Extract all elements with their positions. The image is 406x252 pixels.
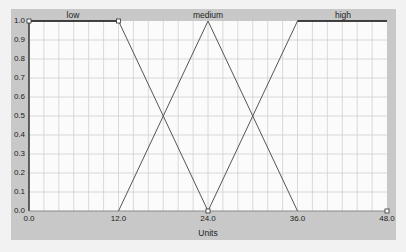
y-tick-label: 0.4: [14, 130, 25, 139]
y-tick-label: 0.6: [14, 92, 25, 101]
x-axis-title: Units: [198, 228, 217, 238]
point-handle[interactable]: [27, 19, 31, 23]
x-tick-label: 48.0: [379, 214, 395, 223]
y-tick-label: 0.5: [14, 111, 25, 120]
point-handle[interactable]: [206, 209, 210, 213]
x-tick-label: 0.0: [23, 214, 34, 223]
point-handle[interactable]: [117, 19, 121, 23]
x-tick-label: 36.0: [290, 214, 306, 223]
x-tick-label: 24.0: [200, 214, 216, 223]
y-tick-label: 0.7: [14, 73, 25, 82]
point-handle[interactable]: [385, 209, 389, 213]
y-tick-label: 0.9: [14, 35, 25, 44]
y-tick-label: 1.0: [14, 16, 25, 25]
x-tick-label: 12.0: [111, 214, 127, 223]
y-tick-label: 0.8: [14, 54, 25, 63]
y-tick-label: 0.2: [14, 168, 25, 177]
y-tick-label: 0.1: [14, 187, 25, 196]
y-tick-label: 0.3: [14, 149, 25, 158]
